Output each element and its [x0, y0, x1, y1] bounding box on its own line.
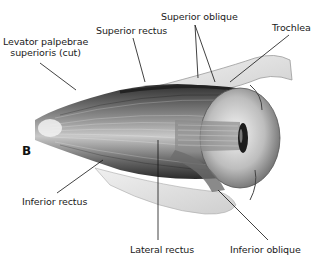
label-levator-line2: superioris (cut) [3, 47, 88, 58]
label-superior-oblique: Superior oblique [161, 11, 238, 22]
label-lateral-rectus: Lateral rectus [130, 244, 194, 255]
label-inferior-rectus: Inferior rectus [22, 196, 87, 207]
label-inferior-oblique: Inferior oblique [230, 244, 301, 255]
label-levator-line1: Levator palpebrae [3, 36, 88, 47]
label-trochlea: Trochlea [272, 22, 311, 33]
leader-superior-rectus [133, 38, 145, 82]
leader-inferior-oblique [218, 190, 268, 240]
leader-inferior-rectus [57, 160, 103, 193]
label-levator-palpebrae: Levator palpebrae superioris (cut) [3, 36, 88, 58]
panel-letter: B [22, 144, 31, 158]
label-superior-rectus: Superior rectus [96, 25, 167, 36]
leader-levator [40, 63, 76, 90]
